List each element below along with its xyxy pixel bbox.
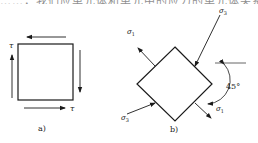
tau-label-left: τ — [9, 41, 14, 50]
sigma1-bottom-right-arrow — [195, 103, 211, 118]
rotated-square-element — [137, 47, 212, 121]
angle-label: 45° — [226, 82, 240, 91]
figure-a-pure-shear-element: τ τ a) — [9, 37, 80, 133]
sigma3-top-right-arrow — [195, 15, 220, 66]
square-element — [18, 44, 73, 100]
sigma1-top-left-label: σ1 — [127, 28, 135, 37]
caption-a: a) — [38, 124, 46, 133]
sigma1-top-left-arrow — [138, 48, 155, 66]
sigma3-bottom-left-arrow — [127, 103, 155, 114]
tau-label-right: τ — [70, 104, 75, 113]
caption-b: b) — [170, 125, 178, 134]
sigma1-bottom-right-label: σ1 — [216, 105, 224, 114]
stress-element-diagram: τ τ a) σ1 σ3 σ3 σ1 45° b) — [0, 0, 258, 143]
sigma3-bottom-left-label: σ3 — [121, 114, 129, 123]
sigma3-top-right-label: σ3 — [219, 7, 227, 16]
figure-b-principal-stress-element: σ1 σ3 σ3 σ1 45° b) — [121, 7, 246, 134]
